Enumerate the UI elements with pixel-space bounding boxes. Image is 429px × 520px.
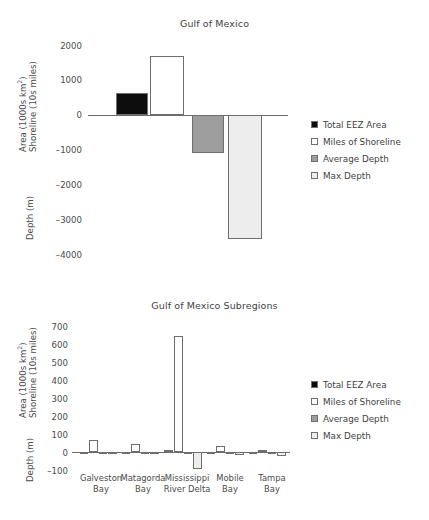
y-axis-ticks-bottom: 700 600 500 400 300 200 100 0 –100 xyxy=(22,320,68,462)
bar-total-eez-area xyxy=(80,452,88,454)
bar-max-depth xyxy=(277,452,286,456)
y-tick: –4000 xyxy=(56,251,82,260)
bar-average-depth xyxy=(99,452,107,454)
legend-label: Average Depth xyxy=(323,154,389,164)
bar-max-depth xyxy=(108,452,117,454)
x-tick-line2: Bay xyxy=(222,484,238,494)
bar-average-depth xyxy=(141,452,149,454)
bar-miles-of-shoreline xyxy=(150,56,184,115)
legend-label: Total EEZ Area xyxy=(323,120,387,130)
bar-average-depth xyxy=(268,452,276,454)
legend-bottom: Total EEZ Area Miles of Shoreline Averag… xyxy=(311,376,401,444)
bar-miles-of-shoreline xyxy=(89,440,98,452)
bar-average-depth xyxy=(226,452,234,454)
bar-average-depth xyxy=(192,115,224,153)
legend-item-total-eez-area: Total EEZ Area xyxy=(311,376,401,393)
legend-swatch-icon xyxy=(311,155,318,162)
plot-area-top xyxy=(88,38,288,260)
legend-label: Total EEZ Area xyxy=(323,380,387,390)
legend-top: Total EEZ Area Miles of Shoreline Averag… xyxy=(311,116,401,184)
y-tick: 2000 xyxy=(60,42,82,51)
legend-label: Miles of Shoreline xyxy=(323,137,401,147)
bar-total-eez-area xyxy=(164,450,173,453)
figure: Gulf of Mexico Area (1000s km2) Shorelin… xyxy=(0,0,429,520)
legend-label: Miles of Shoreline xyxy=(323,397,401,407)
y-tick: 400 xyxy=(52,377,68,386)
y-axis-label-depth-top: Depth (m) xyxy=(26,196,36,240)
legend-swatch-icon xyxy=(311,432,318,439)
x-tick-line2: Bay xyxy=(93,484,109,494)
legend-swatch-icon xyxy=(311,415,318,422)
legend-item-average-depth: Average Depth xyxy=(311,410,401,427)
legend-item-max-depth: Max Depth xyxy=(311,167,401,184)
legend-label: Average Depth xyxy=(323,414,389,424)
y-tick: 100 xyxy=(52,431,68,440)
x-tick-line2: Bay xyxy=(264,484,280,494)
y-tick: –1000 xyxy=(56,146,82,155)
legend-swatch-icon xyxy=(311,172,318,179)
bar-max-depth xyxy=(193,452,202,469)
legend-item-max-depth: Max Depth xyxy=(311,427,401,444)
bar-total-eez-area xyxy=(116,93,148,115)
y-tick: 700 xyxy=(52,323,68,332)
x-tick-line1: Mobile xyxy=(216,473,243,483)
bar-total-eez-area xyxy=(207,452,215,454)
legend-item-miles-of-shoreline: Miles of Shoreline xyxy=(311,133,401,150)
bar-total-eez-area xyxy=(249,452,257,454)
bar-miles-of-shoreline xyxy=(131,444,140,453)
bar-total-eez-area xyxy=(122,452,130,454)
legend-swatch-icon xyxy=(311,381,318,388)
legend-swatch-icon xyxy=(311,138,318,145)
y-axis-ticks-top: 2000 1000 0 –1000 –2000 –3000 –4000 xyxy=(36,38,82,260)
legend-label: Max Depth xyxy=(323,431,371,441)
bar-miles-of-shoreline xyxy=(258,450,267,452)
plot-area-bottom xyxy=(72,320,290,462)
y-axis-label-line1: Area (1000s km2) xyxy=(18,76,28,152)
y-tick: 500 xyxy=(52,359,68,368)
bar-miles-of-shoreline xyxy=(174,336,183,452)
chart-title-top: Gulf of Mexico xyxy=(0,18,429,29)
y-tick: 300 xyxy=(52,395,68,404)
x-tick-tampa-bay: Tampa Bay xyxy=(245,473,299,494)
chart-panel-gulf-of-mexico-subregions: Gulf of Mexico Subregions Area (1000s km… xyxy=(0,280,429,520)
bar-average-depth xyxy=(184,452,192,454)
bar-max-depth xyxy=(235,452,244,455)
legend-item-total-eez-area: Total EEZ Area xyxy=(311,116,401,133)
y-tick: 0 xyxy=(77,111,82,120)
chart-panel-gulf-of-mexico: Gulf of Mexico Area (1000s km2) Shorelin… xyxy=(0,0,429,280)
bar-max-depth xyxy=(228,115,262,239)
y-tick: 0 xyxy=(63,449,68,458)
y-tick: 1000 xyxy=(60,76,82,85)
x-tick-line2: Bay xyxy=(135,484,151,494)
y-tick: 200 xyxy=(52,413,68,422)
bar-max-depth xyxy=(150,452,159,454)
y-tick: –2000 xyxy=(56,181,82,190)
y-tick: –3000 xyxy=(56,216,82,225)
chart-title-bottom: Gulf of Mexico Subregions xyxy=(0,300,429,311)
y-tick: 600 xyxy=(52,341,68,350)
x-tick-line1: Tampa xyxy=(258,473,285,483)
bar-miles-of-shoreline xyxy=(216,446,225,453)
legend-item-average-depth: Average Depth xyxy=(311,150,401,167)
legend-swatch-icon xyxy=(311,398,318,405)
legend-label: Max Depth xyxy=(323,171,371,181)
legend-item-miles-of-shoreline: Miles of Shoreline xyxy=(311,393,401,410)
legend-swatch-icon xyxy=(311,121,318,128)
y-tick: –100 xyxy=(47,467,68,476)
